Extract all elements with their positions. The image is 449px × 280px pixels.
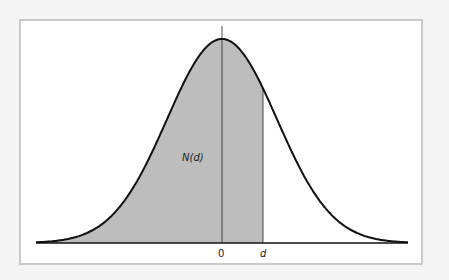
tick-label-zero: 0: [218, 248, 224, 259]
area-label: N(d): [182, 152, 204, 163]
shaded-area-n-d: [36, 39, 263, 243]
tick-label-d: d: [260, 248, 266, 259]
normal-curve-diagram: [0, 0, 449, 280]
